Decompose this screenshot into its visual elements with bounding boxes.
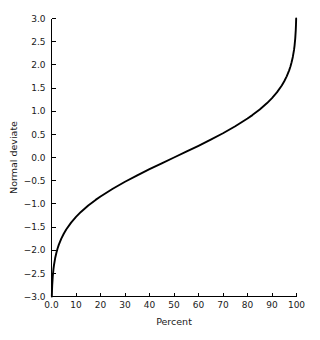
x-tick-label: 80 — [242, 300, 254, 310]
y-axis-title: Normal deviate — [8, 121, 19, 194]
y-tick-label: 2.0 — [31, 60, 46, 70]
y-tick-label: 1.5 — [31, 83, 45, 93]
y-tick-label: 1.0 — [31, 106, 46, 116]
x-axis-ticks — [52, 293, 297, 297]
y-tick-label: 2.5 — [31, 37, 45, 47]
x-axis-tick-labels: 0.0102030405060708090100 — [44, 300, 305, 310]
y-tick-label: −1.5 — [24, 222, 46, 232]
normal-deviate-chart: −3.0−2.5−2.0−1.5−1.0−0.50.00.51.01.52.02… — [0, 0, 320, 340]
y-tick-label: −2.0 — [24, 245, 46, 255]
y-axis-tick-labels: −3.0−2.5−2.0−1.5−1.0−0.50.00.51.01.52.02… — [24, 14, 46, 302]
y-tick-label: 3.0 — [31, 14, 46, 24]
x-tick-label: 10 — [70, 300, 82, 310]
chart-page: −3.0−2.5−2.0−1.5−1.0−0.50.00.51.01.52.02… — [0, 0, 320, 340]
y-tick-label: −0.5 — [24, 176, 46, 186]
x-tick-label: 90 — [266, 300, 278, 310]
y-tick-label: −1.0 — [24, 199, 46, 209]
x-tick-label: 100 — [288, 300, 305, 310]
y-tick-label: 0.0 — [31, 153, 46, 163]
x-tick-label: 20 — [95, 300, 107, 310]
x-tick-label: 70 — [217, 300, 229, 310]
y-tick-label: −2.5 — [24, 269, 46, 279]
y-tick-label: 0.5 — [31, 130, 45, 140]
x-tick-label: 40 — [144, 300, 156, 310]
x-tick-label: 60 — [193, 300, 205, 310]
x-tick-label: 50 — [168, 300, 180, 310]
x-axis-title: Percent — [156, 316, 192, 327]
y-axis-ticks — [52, 19, 56, 297]
normal-deviate-curve — [52, 19, 296, 297]
x-tick-label: 30 — [119, 300, 131, 310]
y-tick-label: −3.0 — [24, 292, 46, 302]
x-tick-label: 0.0 — [44, 300, 59, 310]
